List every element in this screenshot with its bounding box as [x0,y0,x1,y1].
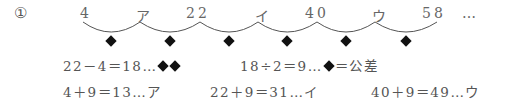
equation-line-1: 22－4＝18… [63,55,181,75]
division-equation: 18÷2＝9… [240,58,323,74]
equation-u: 40＋9＝49…ウ [371,81,480,101]
equation-a: 4＋9＝13…ア [63,81,162,101]
equation-i: 22＋9＝31…イ [210,81,319,101]
common-difference-label: ＝公差 [335,58,379,74]
common-difference-equation: 18÷2＝9…＝公差 [240,55,378,75]
diamond-icon [323,60,334,71]
diamond-icon [158,60,169,71]
diamond-icon [170,60,181,71]
difference-equation: 22－4＝18… [63,58,157,74]
